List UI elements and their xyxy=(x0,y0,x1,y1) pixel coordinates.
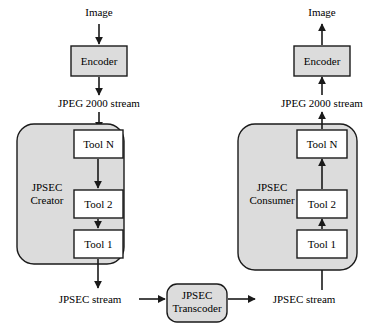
label-tool-2-left: Tool 2 xyxy=(74,190,123,218)
label-jpsec-transcoder: JPSEC Transcoder xyxy=(167,289,227,315)
label-image-right: Image xyxy=(282,6,362,18)
label-jpeg2000-stream-left: JPEG 2000 stream xyxy=(39,97,159,109)
label-tool-2-right: Tool 2 xyxy=(297,190,347,218)
label-tool-1-left: Tool 1 xyxy=(74,230,123,258)
label-encoder-left: Encoder xyxy=(71,46,127,76)
label-tool-n-right: Tool N xyxy=(297,130,347,158)
label-jpsec-creator: JPSEC Creator xyxy=(19,181,75,207)
label-tool-1-right: Tool 1 xyxy=(297,230,347,258)
label-tool-n-left: Tool N xyxy=(74,130,123,158)
label-jpsec-consumer: JPSEC Consumer xyxy=(241,181,303,207)
label-jpeg2000-stream-right: JPEG 2000 stream xyxy=(262,97,376,109)
label-jpsec-stream-right: JPSEC stream xyxy=(258,293,350,305)
label-jpsec-stream-left: JPSEC stream xyxy=(44,293,136,305)
label-encoder-right: Encoder xyxy=(294,46,350,76)
label-image-left: Image xyxy=(59,6,139,18)
jpsec-block-diagram: Image Encoder JPEG 2000 stream JPSEC Cre… xyxy=(0,0,376,336)
